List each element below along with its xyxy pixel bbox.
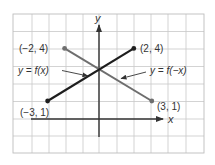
label-point-neg2-4: (−2, 4): [19, 43, 48, 54]
label-point-3-1: (3, 1): [157, 101, 180, 112]
arrow-f-neg-x: [121, 72, 146, 79]
grid-border: [13, 14, 204, 153]
point-3-1: [149, 99, 154, 104]
label-point-2-4: (2, 4): [140, 43, 163, 54]
point-neg2-4: [62, 46, 67, 51]
label-f-x: y = f(x): [17, 65, 49, 76]
chart-svg: x y (−2, 4) (2, 4) (−3, 1) (3, 1) y = f(…: [0, 0, 215, 165]
label-f-neg-x: y = f(−x): [149, 65, 187, 76]
x-axis-label: x: [167, 113, 174, 125]
f-neg-x-line: [65, 48, 152, 101]
f-x-line: [48, 48, 134, 101]
label-point-neg3-1: (−3, 1): [20, 107, 49, 118]
grid: [13, 14, 204, 153]
point-2-4: [131, 46, 136, 51]
function-reflection-figure: x y (−2, 4) (2, 4) (−3, 1) (3, 1) y = f(…: [0, 0, 215, 165]
point-neg3-1: [45, 99, 50, 104]
